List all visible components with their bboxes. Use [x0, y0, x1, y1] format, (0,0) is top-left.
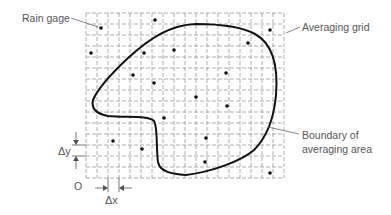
rain-gage-dot — [152, 81, 156, 85]
delta-y-dimension: Δy — [58, 132, 86, 169]
averaging-grid-label: Averaging grid — [302, 21, 370, 33]
averaging-grid — [86, 13, 284, 178]
rain-gage-dot — [268, 171, 272, 175]
rain-gage-dot — [246, 41, 250, 45]
averaging-area-boundary — [93, 24, 277, 175]
arrow-right-icon — [103, 185, 108, 191]
rain-gage-dot — [111, 139, 115, 143]
rain-gage-dot — [162, 116, 166, 120]
rain-gage-dot — [224, 71, 228, 75]
rain-gage-dot — [153, 18, 157, 22]
rain-gage-dot — [204, 136, 208, 140]
delta-x-label: Δx — [105, 194, 118, 206]
rain-gage-dot — [203, 160, 207, 164]
rain-gage-dot — [89, 51, 93, 55]
averaging-grid-leader — [286, 27, 300, 33]
averaging-area-diagram: Rain gage Averaging grid Boundary of ave… — [0, 0, 391, 215]
arrow-left-icon — [119, 185, 124, 191]
rain-gage-dot — [131, 73, 135, 77]
delta-x-dimension: Δx — [95, 178, 132, 206]
rain-gage-dot — [140, 147, 144, 151]
boundary-label-line2: averaging area — [302, 143, 372, 155]
arrow-up-icon — [73, 156, 79, 161]
rain-gage-dot — [172, 48, 176, 52]
origin-label: O — [74, 180, 82, 192]
rain-gage-leader — [71, 18, 98, 27]
rain-gages — [89, 18, 272, 175]
arrow-down-icon — [73, 140, 79, 145]
delta-y-label: Δy — [58, 145, 71, 157]
rain-gage-dot — [142, 51, 146, 55]
boundary-label-line1: Boundary of — [302, 129, 359, 141]
rain-gage-dot — [194, 95, 198, 99]
rain-gage-label: Rain gage — [22, 12, 70, 24]
rain-gage-dot — [225, 104, 229, 108]
rain-gage-dot — [99, 26, 103, 30]
rain-gage-dot — [268, 28, 272, 32]
